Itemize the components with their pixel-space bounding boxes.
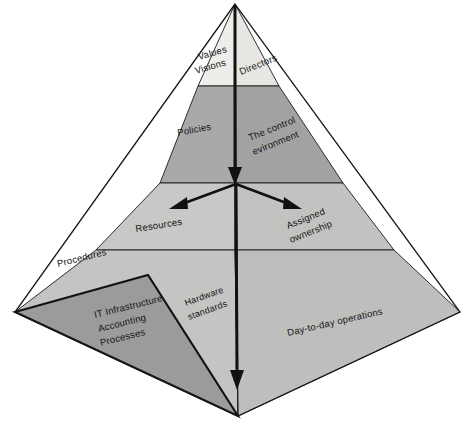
vertical-axis-arrow-shaft-lower (236, 185, 237, 374)
pyramid-figure: Values Visions Directors Policies The co… (0, 0, 469, 429)
pyramid-diagram: Values Visions Directors Policies The co… (0, 0, 469, 429)
left-face-band-policies (160, 86, 235, 183)
right-face-band-base (235, 250, 460, 416)
